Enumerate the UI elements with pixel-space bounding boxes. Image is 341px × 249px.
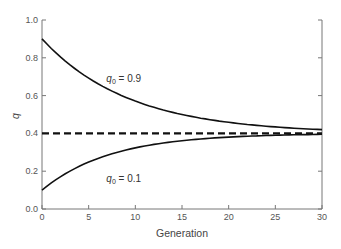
y-tick-label: 1.0 <box>25 15 38 25</box>
y-tick-label: 0.4 <box>25 128 38 138</box>
y-tick-label: 0.6 <box>25 91 38 101</box>
series-line <box>42 134 322 190</box>
y-tick-label: 0.8 <box>25 53 38 63</box>
curve-annotation: q0 = 0.1 <box>106 173 141 185</box>
x-tick-label: 0 <box>39 212 44 222</box>
x-tick-label: 20 <box>224 212 234 222</box>
curve-annotation: q0 = 0.9 <box>106 73 141 85</box>
x-tick-label: 30 <box>317 212 327 222</box>
chart: 0.00.20.40.60.81.0051015202530 q0 = 0.9q… <box>0 0 341 249</box>
series-line <box>42 39 322 130</box>
x-tick-label: 10 <box>130 212 140 222</box>
x-tick-label: 5 <box>86 212 91 222</box>
annotations: q0 = 0.9q0 = 0.1 <box>106 73 141 185</box>
x-tick-label: 25 <box>270 212 280 222</box>
x-axis-label: Generation <box>156 227 208 239</box>
y-tick-label: 0.0 <box>25 204 38 214</box>
series-lines <box>42 39 322 190</box>
y-tick-label: 0.2 <box>25 166 38 176</box>
axes: 0.00.20.40.60.81.0051015202530 <box>25 15 327 222</box>
x-tick-label: 15 <box>177 212 187 222</box>
y-axis-label: q <box>9 113 21 119</box>
